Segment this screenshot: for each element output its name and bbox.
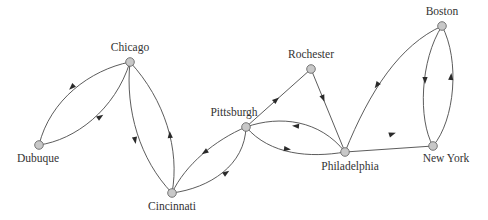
route-graph: ChicagoDubuqueCincinnatiPittsburghRoches…	[0, 0, 488, 220]
edge-pittsburgh-to-philadelphia	[246, 127, 345, 155]
edge-line	[433, 26, 453, 146]
node-cincinnati	[168, 189, 177, 198]
labels-layer: ChicagoDubuqueCincinnatiPittsburghRoches…	[17, 5, 470, 212]
edge-cincinnati-to-pittsburgh	[172, 127, 246, 193]
node-label-newyork: New York	[423, 152, 470, 164]
node-philadelphia	[341, 148, 350, 157]
node-label-cincinnati: Cincinnati	[148, 200, 196, 212]
edge-newyork-to-boston	[433, 26, 454, 146]
edge-boston-to-newyork	[422, 26, 442, 146]
edge-chicago-to-dubuque	[39, 62, 130, 145]
arrowhead-icon	[167, 131, 173, 138]
node-boston	[438, 22, 447, 31]
arrowhead-icon	[422, 77, 427, 84]
edge-line	[39, 62, 130, 145]
edge-philadelphia-to-pittsburgh	[246, 121, 345, 152]
edge-chicago-to-cincinnati	[129, 62, 172, 193]
arrowhead-icon	[67, 83, 76, 92]
node-label-boston: Boston	[426, 5, 459, 17]
edge-line	[39, 62, 130, 145]
node-label-pittsburgh: Pittsburgh	[210, 106, 257, 119]
node-label-chicago: Chicago	[111, 41, 150, 54]
node-label-rochester: Rochester	[288, 48, 334, 60]
arrowhead-icon	[132, 137, 138, 145]
node-newyork	[429, 142, 438, 151]
edge-pittsburgh-to-rochester	[246, 69, 311, 127]
edge-rochester-to-philadelphia	[311, 69, 345, 152]
edge-line	[311, 69, 345, 152]
edge-line	[172, 127, 246, 193]
edge-line	[345, 146, 433, 152]
arrowhead-icon	[319, 94, 326, 102]
edge-line	[246, 127, 345, 155]
edge-dubuque-to-chicago	[39, 62, 130, 145]
arrowhead-icon	[292, 123, 299, 129]
node-dubuque	[35, 141, 44, 150]
edge-line	[130, 62, 174, 193]
node-label-philadelphia: Philadelphia	[321, 160, 379, 173]
edge-line	[129, 62, 172, 193]
node-label-dubuque: Dubuque	[17, 152, 59, 165]
arrowhead-icon	[96, 113, 105, 121]
arrowhead-icon	[388, 130, 396, 137]
node-pittsburgh	[242, 123, 251, 132]
node-chicago	[126, 58, 135, 67]
edge-philadelphia-to-newyork	[345, 130, 433, 152]
edge-cincinnati-to-chicago	[130, 62, 174, 193]
edge-line	[423, 26, 442, 146]
node-rochester	[307, 65, 316, 74]
